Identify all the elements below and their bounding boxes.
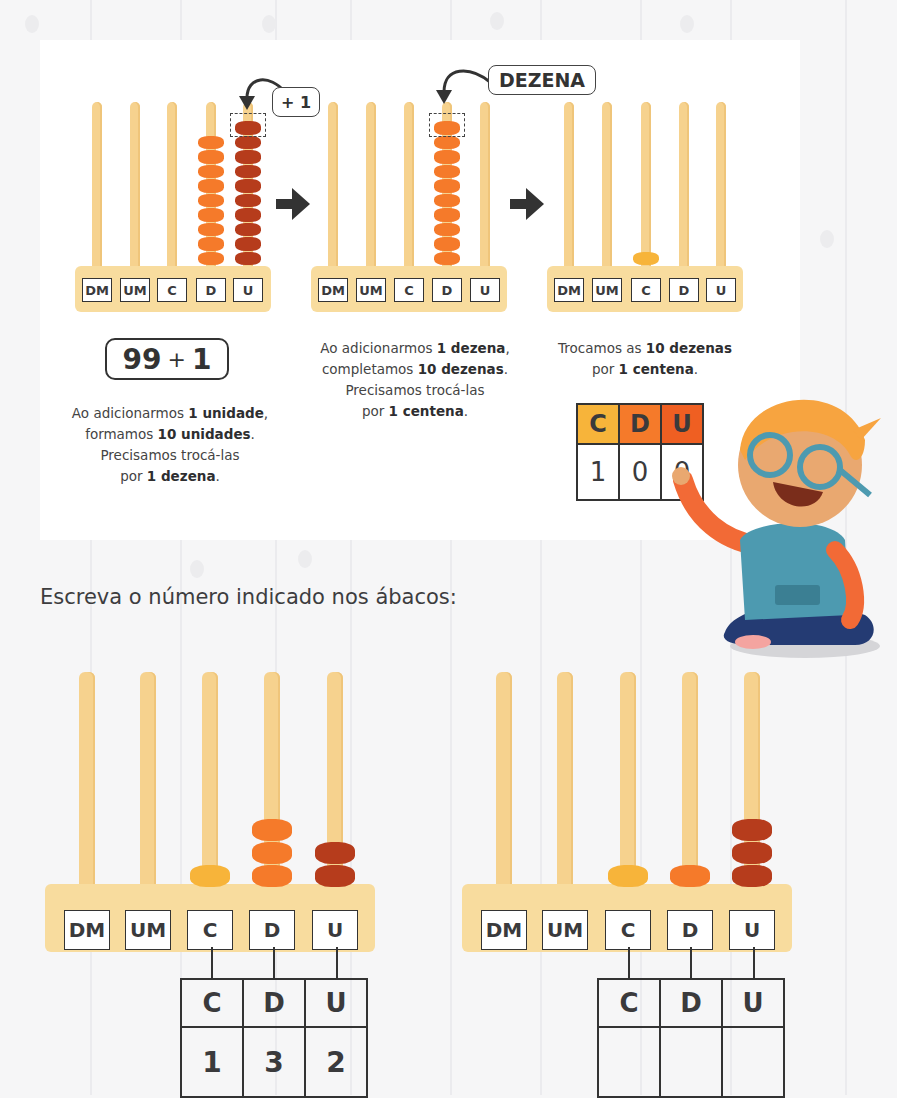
bead-d — [198, 252, 224, 266]
place-label-c: C — [157, 278, 187, 302]
connector-line — [690, 947, 692, 979]
place-label-u: U — [470, 278, 500, 302]
bead-u — [235, 136, 261, 150]
bead-d — [434, 223, 460, 237]
rod-dm — [79, 672, 95, 894]
place-label-d: D — [249, 910, 295, 950]
bead-d — [434, 208, 460, 222]
bead-d — [434, 150, 460, 164]
place-label-dm: DM — [554, 278, 584, 302]
bead-u — [235, 165, 261, 179]
place-label-u: U — [233, 278, 263, 302]
bead-d — [198, 208, 224, 222]
connector-line — [628, 947, 630, 979]
place-label-dm: DM — [481, 910, 527, 950]
rod-dm — [496, 672, 512, 894]
bead-d — [198, 150, 224, 164]
place-label-u: U — [706, 278, 736, 302]
rod-c — [167, 102, 177, 272]
bead-u — [235, 150, 261, 164]
bead-u — [315, 842, 355, 864]
bead-d — [434, 179, 460, 193]
place-label-um: UM — [592, 278, 622, 302]
value-d: 0 — [619, 444, 661, 500]
place-label-dm: DM — [82, 278, 112, 302]
step2-explanation: Ao adicionarmos 1 dezena, completamos 10… — [290, 338, 540, 422]
connector-line — [753, 947, 755, 979]
answer-c[interactable] — [598, 1027, 660, 1097]
bead-d — [198, 223, 224, 237]
abacus-step2: DMUMCDU — [311, 100, 511, 312]
rod-um — [557, 672, 573, 894]
rod-dm — [92, 102, 102, 272]
rod-um — [602, 102, 612, 272]
bead-d — [670, 865, 710, 887]
place-label-c: C — [187, 910, 233, 950]
cdu-table-exercise-1: C D U 1 3 2 — [180, 978, 368, 1098]
bead-d — [434, 237, 460, 251]
rod-dm — [328, 102, 338, 272]
bead-u — [235, 179, 261, 193]
cdu-table-exercise-2: C D U — [597, 978, 785, 1098]
place-label-d: D — [196, 278, 226, 302]
header-d: D — [660, 979, 722, 1027]
sum-right: 1 — [192, 343, 211, 376]
rod-d — [682, 672, 698, 894]
bead-d — [198, 237, 224, 251]
place-label-c: C — [631, 278, 661, 302]
bead-d — [434, 136, 460, 150]
bead-u — [235, 194, 261, 208]
header-c: C — [577, 404, 619, 444]
answer-d[interactable]: 3 — [243, 1027, 305, 1097]
place-label-dm: DM — [318, 278, 348, 302]
place-label-u: U — [729, 910, 775, 950]
bead-d — [198, 179, 224, 193]
answer-u[interactable]: 2 — [305, 1027, 367, 1097]
sum-operator: + — [168, 347, 186, 372]
bead-u — [732, 842, 772, 864]
connector-line — [211, 947, 213, 979]
bead-u — [235, 237, 261, 251]
boy-illustration — [665, 370, 897, 670]
header-u: U — [305, 979, 367, 1027]
place-label-d: D — [669, 278, 699, 302]
abacus-step3: DMUMCDU — [547, 100, 747, 312]
connector-line — [273, 947, 275, 979]
bead-u — [235, 223, 261, 237]
header-d: D — [243, 979, 305, 1027]
answer-d[interactable] — [660, 1027, 722, 1097]
bead-u — [235, 208, 261, 222]
place-label-um: UM — [356, 278, 386, 302]
connector-line — [336, 947, 338, 979]
abacus-exercise-1: DMUMCDU — [45, 670, 380, 935]
bead-u — [315, 865, 355, 887]
place-label-um: UM — [125, 910, 171, 950]
sum-expression: 99 + 1 — [105, 338, 229, 380]
bead-c — [633, 252, 659, 266]
abacus-exercise-2: DMUMCDU — [462, 670, 797, 935]
bead-d — [198, 194, 224, 208]
rod-um — [140, 672, 156, 894]
bead-d — [252, 819, 292, 841]
rod-d — [679, 102, 689, 272]
place-label-d: D — [432, 278, 462, 302]
rod-u — [716, 102, 726, 272]
answer-c[interactable]: 1 — [181, 1027, 243, 1097]
rod-u — [480, 102, 490, 272]
rod-c — [620, 672, 636, 894]
header-c: C — [598, 979, 660, 1027]
bead-d — [434, 165, 460, 179]
bead-c — [608, 865, 648, 887]
exercise-instruction: Escreva o número indicado nos ábacos: — [40, 585, 457, 609]
bead-d — [434, 252, 460, 266]
answer-u[interactable] — [722, 1027, 784, 1097]
bead-c — [190, 865, 230, 887]
rod-c — [641, 102, 651, 272]
place-label-c: C — [605, 910, 651, 950]
bead-d — [198, 165, 224, 179]
bead-d — [252, 865, 292, 887]
rod-c — [404, 102, 414, 272]
header-u: U — [722, 979, 784, 1027]
right-arrow-icon — [510, 188, 544, 220]
bead-d — [252, 842, 292, 864]
